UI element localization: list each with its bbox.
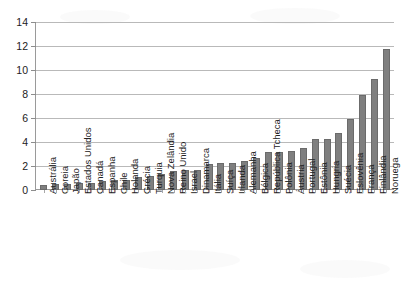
x-tick-mark (221, 190, 222, 193)
x-tick-mark (197, 190, 198, 193)
x-tick-label: Hungria (331, 161, 341, 194)
y-tick-label-2: 2 (22, 161, 28, 171)
x-label-slot: Espanha (97, 192, 109, 288)
x-tick-label: Portugal (307, 159, 317, 194)
x-tick-mark (67, 190, 68, 193)
x-tick-mark (315, 190, 316, 193)
x-tick-mark (44, 190, 45, 193)
x-label-slot: Finlândia (368, 192, 380, 288)
x-tick-mark (327, 190, 328, 193)
x-tick-mark (244, 190, 245, 193)
y-tick-label-10: 10 (16, 65, 28, 75)
x-tick-mark (280, 190, 281, 193)
x-label-slot: Israel (180, 192, 192, 288)
bar-slot (62, 22, 74, 190)
x-tick-mark (126, 190, 127, 193)
x-label-slot: Turquia (144, 192, 156, 288)
x-label-slot: Suécia (333, 192, 345, 288)
x-label-slot: França (357, 192, 369, 288)
x-tick-mark (351, 190, 352, 193)
x-tick-mark (162, 190, 163, 193)
x-label-slot: Dinamarca (191, 192, 203, 288)
y-tick-label-12: 12 (16, 41, 28, 51)
x-tick-mark (56, 190, 57, 193)
x-tick-mark (268, 190, 269, 193)
x-tick-mark (362, 190, 363, 193)
x-label-slot: Japão (62, 192, 74, 288)
x-tick-mark (185, 190, 186, 193)
x-tick-label: Reino Unido (178, 142, 188, 194)
x-tick-label: Finlândia (378, 155, 388, 194)
x-tick-mark (138, 190, 139, 193)
x-label-slot: Canadá (85, 192, 97, 288)
x-label-slot: Austrália (38, 192, 50, 288)
x-tick-mark (150, 190, 151, 193)
x-tick-label: Austrália (48, 157, 58, 194)
x-label-slot: Polônia (274, 192, 286, 288)
x-tick-mark (103, 190, 104, 193)
bar-slot (215, 22, 227, 190)
x-label-slot: Grécia (132, 192, 144, 288)
x-tick-mark (292, 190, 293, 193)
x-label-slot: Suíça (215, 192, 227, 288)
x-tick-mark (256, 190, 257, 193)
x-tick-mark (174, 190, 175, 193)
x-tick-mark (374, 190, 375, 193)
y-tick-label-14: 14 (16, 17, 28, 27)
y-tick-mark (31, 190, 36, 191)
x-label-slot: Chile (109, 192, 121, 288)
x-tick-mark (386, 190, 387, 193)
x-tick-label: Eslovênia (355, 153, 365, 194)
x-label-slot: Irlanda (227, 192, 239, 288)
x-tick-label: Noruega (390, 158, 400, 194)
y-tick-label-6: 6 (22, 113, 28, 123)
y-tick-label-4: 4 (22, 137, 28, 147)
x-label-slot: Bélgica (250, 192, 262, 288)
x-label-slot: Eslovênia (345, 192, 357, 288)
x-label-slot: Noruega (380, 192, 392, 288)
x-tick-label: Canadá (95, 161, 105, 194)
x-tick-mark (233, 190, 234, 193)
x-label-slot: Estados Unidos (73, 192, 85, 288)
x-tick-mark (303, 190, 304, 193)
x-tick-label: Dinamarca (201, 148, 211, 194)
x-tick-mark (79, 190, 80, 193)
x-label-slot: Reino Unido (168, 192, 180, 288)
x-label-slot: Holanda (121, 192, 133, 288)
x-label-slot: Hungria (321, 192, 333, 288)
x-tick-mark (91, 190, 92, 193)
x-axis-labels: AustráliaCoreiaJapãoEstados UnidosCanadá… (36, 192, 394, 288)
chart-plot-wrapper: 14 12 10 8 6 4 2 0 (0, 0, 412, 288)
y-tick-label-8: 8 (22, 89, 28, 99)
bar-chart: 14 12 10 8 6 4 2 0 (0, 0, 412, 288)
x-label-slot: Coreia (50, 192, 62, 288)
x-tick-mark (209, 190, 210, 193)
x-label-slot: Estônia (309, 192, 321, 288)
x-tick-label: República Tcheca (272, 119, 282, 194)
x-label-slot: Itália (203, 192, 215, 288)
y-axis-labels: 14 12 10 8 6 4 2 0 (0, 0, 32, 288)
x-tick-label: Nova Zelândia (166, 133, 176, 194)
y-tick-label-0: 0 (22, 185, 28, 195)
x-tick-mark (115, 190, 116, 193)
x-tick-label: Alemanha (248, 151, 258, 194)
x-label-slot: Portugal (298, 192, 310, 288)
x-tick-label: Estados Unidos (83, 127, 93, 194)
x-tick-mark (339, 190, 340, 193)
x-tick-label: Holanda (130, 159, 140, 194)
x-tick-label: Espanha (107, 156, 117, 194)
x-label-slot: Alemanha (239, 192, 251, 288)
x-label-slot: Nova Zelândia (156, 192, 168, 288)
x-label-slot: República Tcheca (262, 192, 274, 288)
x-label-slot: Áustria (286, 192, 298, 288)
